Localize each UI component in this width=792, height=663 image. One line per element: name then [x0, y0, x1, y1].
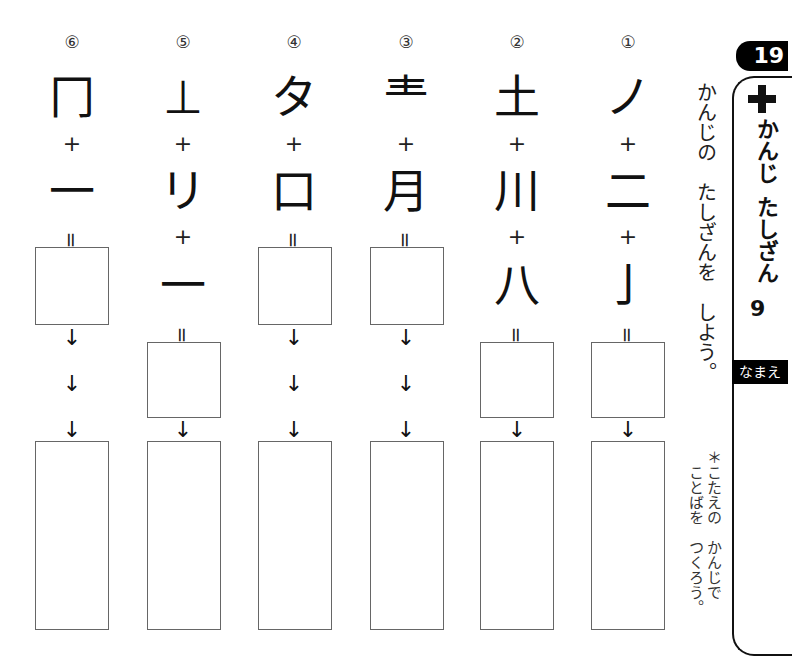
arrow-down-icon: ↓ — [391, 373, 421, 395]
arrow-down-icon: ↓ — [391, 327, 421, 349]
name-field[interactable] — [734, 384, 788, 634]
problem-number: ① — [608, 32, 648, 52]
answer-box[interactable] — [35, 247, 109, 325]
arrow-down-icon: ↓ — [279, 373, 309, 395]
arrow-down-icon: ↓ — [502, 419, 532, 441]
kanji-part: 二 — [583, 168, 673, 214]
arrow-down-icon: ↓ — [613, 419, 643, 441]
arrow-down-icon: ↓ — [57, 373, 87, 395]
answer-box[interactable] — [370, 247, 444, 325]
problem-number: ⑤ — [163, 32, 203, 52]
word-box[interactable] — [147, 441, 221, 630]
problem-number: ⑥ — [52, 32, 92, 52]
kanji-part: リ — [138, 168, 228, 214]
kanji-part: 口 — [249, 168, 339, 214]
arrow-down-icon: ↓ — [391, 419, 421, 441]
kanji-part: タ — [249, 74, 339, 120]
lesson-number: 19 — [753, 43, 784, 68]
kanji-part: 一 — [27, 168, 117, 214]
kanji-part: 月 — [361, 168, 451, 214]
arrow-down-icon: ↓ — [57, 419, 87, 441]
title-text-2: たしざん — [749, 196, 781, 284]
answer-box[interactable] — [480, 342, 554, 418]
word-box[interactable] — [370, 441, 444, 630]
kanji-part: 亅 — [583, 262, 673, 308]
kanji-part: 八 — [472, 262, 562, 308]
kanji-part: 一 — [138, 262, 228, 308]
title-number: 9 — [750, 296, 765, 321]
plus-sign: + — [502, 133, 532, 155]
kanji-part: 川 — [472, 168, 562, 214]
kanji-part: 龶 — [361, 74, 451, 120]
answer-box[interactable] — [591, 342, 665, 418]
plus-sign: + — [613, 133, 643, 155]
arrow-down-icon: ↓ — [57, 327, 87, 349]
problem-number: ③ — [386, 32, 426, 52]
lesson-number-badge: 19 — [736, 41, 788, 71]
arrow-down-icon: ↓ — [279, 419, 309, 441]
name-label: なまえ — [732, 360, 788, 384]
problem-number: ④ — [274, 32, 314, 52]
plus-sign: + — [57, 133, 87, 155]
arrow-down-icon: ↓ — [279, 327, 309, 349]
plus-sign: + — [168, 226, 198, 248]
kanji-part: ⊥ — [138, 74, 228, 120]
kanji-part: ノ — [583, 74, 673, 120]
word-box[interactable] — [35, 441, 109, 630]
plus-sign: + — [613, 226, 643, 248]
answer-box[interactable] — [258, 247, 332, 325]
kanji-part: 土 — [472, 74, 562, 120]
arrow-down-icon: ↓ — [168, 419, 198, 441]
note-line-2: ことばを つくろう。 — [685, 465, 706, 615]
plus-sign: + — [168, 133, 198, 155]
problem-number: ② — [497, 32, 537, 52]
plus-sign: + — [502, 226, 532, 248]
word-box[interactable] — [258, 441, 332, 630]
word-box[interactable] — [591, 441, 665, 630]
note-line-1: ＊こたえの かんじで — [703, 450, 724, 600]
word-box[interactable] — [480, 441, 554, 630]
plus-sign: + — [279, 133, 309, 155]
instruction-text: かんじの たしざんを しよう。 — [691, 82, 720, 382]
answer-box[interactable] — [147, 342, 221, 418]
plus-sign: + — [391, 133, 421, 155]
title-text-1: かんじ — [749, 118, 781, 184]
kanji-part: 冂 — [27, 74, 117, 120]
plus-icon — [748, 85, 776, 113]
